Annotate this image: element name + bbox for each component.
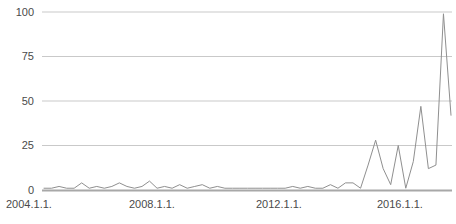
line-chart: 100 75 50 25 0 2004.1.1. 2008.1.1. 2012.… <box>0 0 456 224</box>
x-tick-label-2008: 2008.1.1. <box>129 199 175 210</box>
gridlines <box>42 12 452 146</box>
y-tick-label-25: 25 <box>4 140 34 151</box>
x-tick-label-2016: 2016.1.1. <box>377 199 423 210</box>
x-tick-label-2004: 2004.1.1. <box>6 199 52 210</box>
chart-plot-area <box>0 0 456 224</box>
x-tick-label-2012: 2012.1.1. <box>256 199 302 210</box>
y-tick-label-75: 75 <box>4 51 34 62</box>
y-tick-label-50: 50 <box>4 96 34 107</box>
y-tick-label-0: 0 <box>4 185 34 196</box>
y-tick-label-100: 100 <box>4 7 34 18</box>
